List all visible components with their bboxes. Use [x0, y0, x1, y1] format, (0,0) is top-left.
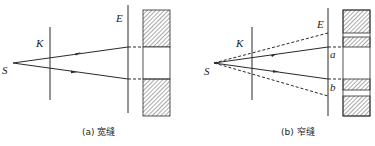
shadow-top	[343, 10, 370, 33]
lower-ray	[13, 63, 128, 79]
fringe-dark-lower	[343, 79, 370, 90]
label-a: a	[330, 48, 336, 60]
diagram-canvas: S K E (a) 宽缝 S K E a b (b) 窄缝	[0, 0, 375, 146]
bright-region	[143, 47, 170, 79]
shadow-bottom	[343, 96, 370, 116]
lower-diffracted-ray	[214, 63, 328, 96]
label-k: K	[35, 37, 44, 49]
fringe-dark-upper	[343, 37, 370, 47]
lower-ray	[214, 63, 328, 79]
shadow-bottom	[143, 79, 170, 116]
caption-a: (a) 宽缝	[82, 126, 115, 137]
figure-a-wide-slit: S K E (a) 宽缝	[2, 5, 170, 137]
caption-b: (b) 窄缝	[281, 126, 315, 137]
label-b: b	[330, 81, 336, 93]
figure-b-narrow-slit: S K E a b (b) 窄缝	[204, 8, 370, 137]
shadow-top	[143, 10, 170, 47]
label-k: K	[235, 37, 244, 49]
label-e: E	[115, 12, 123, 24]
upper-ray	[13, 47, 128, 63]
upper-diffracted-ray	[214, 33, 328, 63]
label-s: S	[2, 64, 8, 76]
label-s: S	[204, 65, 210, 77]
label-e: E	[316, 18, 324, 30]
